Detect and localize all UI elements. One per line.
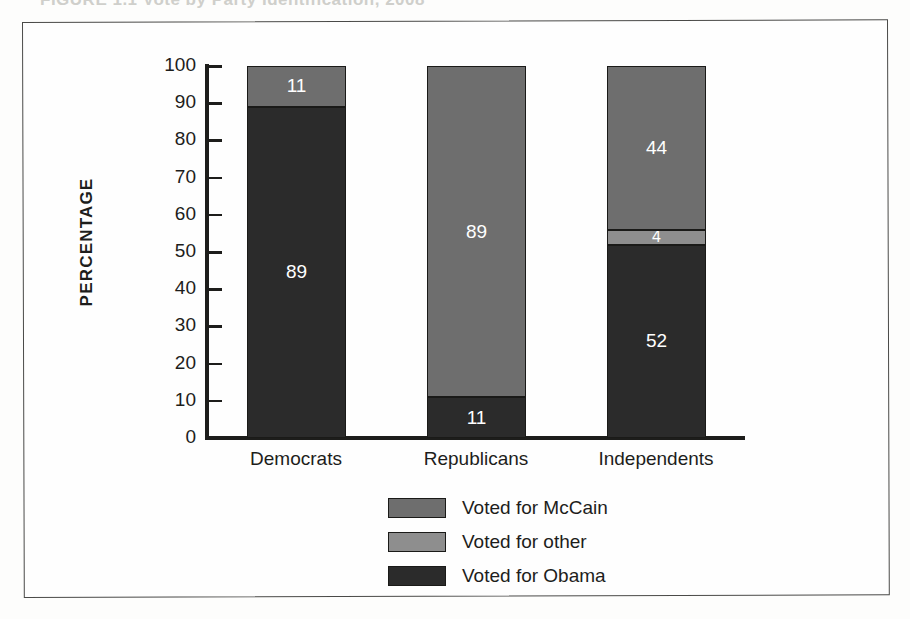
y-axis-tick-label: 90 xyxy=(136,91,196,113)
category-label: Independents xyxy=(561,448,751,470)
y-axis-tick-label: 50 xyxy=(136,240,196,262)
legend-label: Voted for Obama xyxy=(462,565,606,587)
y-axis-tick-label: 0 xyxy=(136,426,196,448)
category-label: Republicans xyxy=(381,448,571,470)
bar-segment[interactable]: 11 xyxy=(427,397,526,438)
bar-segment[interactable]: 52 xyxy=(607,245,706,438)
y-axis-title: PERCENTAGE xyxy=(77,147,97,337)
y-axis-tick xyxy=(209,325,222,328)
y-axis-tick-label: 10 xyxy=(136,389,196,411)
y-axis-tick-label: 80 xyxy=(136,128,196,150)
y-axis-tick xyxy=(209,251,222,254)
y-axis-tick xyxy=(209,437,222,440)
y-axis-tick-label: 20 xyxy=(136,352,196,374)
y-axis-tick xyxy=(209,102,222,105)
y-axis-tick-label: 100 xyxy=(136,54,196,76)
bar-segment[interactable]: 4 xyxy=(607,230,706,245)
bar-segment[interactable]: 89 xyxy=(247,107,346,438)
bar-segment[interactable]: 44 xyxy=(607,66,706,230)
y-axis-tick xyxy=(209,177,222,180)
y-axis-tick-label: 70 xyxy=(136,166,196,188)
legend-swatch xyxy=(388,532,446,552)
y-axis-tick xyxy=(209,65,222,68)
legend-swatch xyxy=(388,498,446,518)
legend-swatch xyxy=(388,566,446,586)
chart-plot-area: PERCENTAGE 1009080706050403020100 118989… xyxy=(0,0,910,619)
y-axis-tick xyxy=(209,139,222,142)
category-label: Democrats xyxy=(201,448,391,470)
legend-label: Voted for other xyxy=(462,531,587,553)
bar-segment[interactable]: 89 xyxy=(427,66,526,397)
y-axis-tick xyxy=(209,363,222,366)
bar-segment[interactable]: 11 xyxy=(247,66,346,107)
y-axis-tick xyxy=(209,288,222,291)
legend-label: Voted for McCain xyxy=(462,497,608,519)
chart-legend: Voted for McCainVoted for otherVoted for… xyxy=(388,494,608,596)
y-axis-tick xyxy=(209,214,222,217)
legend-item[interactable]: Voted for other xyxy=(388,528,608,556)
legend-item[interactable]: Voted for McCain xyxy=(388,494,608,522)
y-axis-tick-label: 60 xyxy=(136,203,196,225)
y-axis-tick-label: 30 xyxy=(136,314,196,336)
y-axis-tick xyxy=(209,400,222,403)
y-axis-tick-label: 40 xyxy=(136,277,196,299)
legend-item[interactable]: Voted for Obama xyxy=(388,562,608,590)
